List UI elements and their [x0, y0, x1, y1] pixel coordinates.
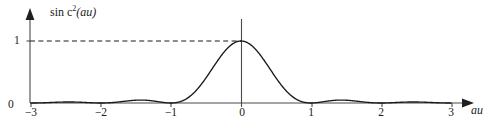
x-tick-label-minus2: −2	[95, 107, 107, 119]
x-axis-title: au	[471, 104, 483, 116]
y-axis-arrow-icon	[26, 8, 35, 20]
y-axis-title-arg: (au)	[76, 5, 96, 19]
x-tick-label-1: 1	[308, 107, 314, 119]
origin-label: 0	[8, 99, 14, 111]
y-axis-title-prefix: sin c	[50, 5, 72, 19]
y-axis-title: sin c2(au)	[50, 6, 96, 18]
x-tick-label-0: 0	[239, 107, 245, 119]
x-tick-label-3: 3	[448, 107, 454, 119]
chart-figure: sin c2(au) au 1 0 −3−2−10123	[0, 0, 489, 129]
x-tick-label-minus1: −1	[165, 107, 177, 119]
x-tick-label-minus3: −3	[25, 107, 37, 119]
x-tick-label-2: 2	[378, 107, 384, 119]
y-tick-label-1: 1	[14, 35, 20, 47]
